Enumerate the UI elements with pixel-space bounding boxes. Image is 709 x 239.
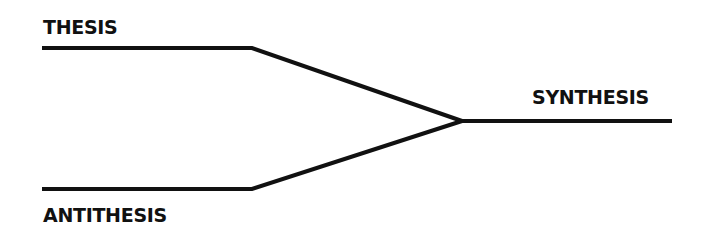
- antithesis-line: [42, 121, 462, 189]
- synthesis-label: SYNTHESIS: [532, 88, 649, 107]
- thesis-line: [42, 48, 462, 121]
- antithesis-label: ANTITHESIS: [43, 206, 167, 225]
- thesis-label: THESIS: [43, 18, 117, 37]
